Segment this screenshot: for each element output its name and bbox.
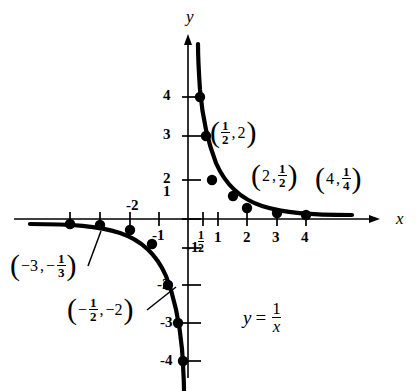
open-paren: ( [210, 120, 220, 144]
open-paren: ( [10, 253, 20, 277]
comma: , [271, 168, 277, 184]
y-tick-4: 4 [163, 88, 171, 103]
x-tick-2: 2 [243, 230, 251, 245]
x-tick-one-half: 1 2 [198, 226, 204, 254]
x-value: 2 [261, 168, 271, 184]
data-point [125, 225, 135, 235]
x-tick-1: 1 [214, 230, 222, 245]
fraction-one-quarter: 1 4 [342, 165, 351, 192]
minus-sign: − [77, 302, 88, 318]
fraction-one-half: 1 2 [278, 162, 287, 189]
y-tick-1: 1 [163, 184, 171, 199]
close-paren: ) [247, 120, 257, 144]
minus-sign: − [45, 258, 56, 274]
y-tick-3: 3 [163, 127, 171, 142]
comma: , [335, 171, 341, 187]
equation-label: y = 1 x [243, 300, 283, 335]
data-point [95, 220, 105, 230]
leader-line-neg-three [88, 231, 101, 266]
fraction-one-half: 1 2 [89, 296, 98, 323]
graph-canvas [0, 0, 420, 391]
y-value: −2 [105, 302, 124, 318]
x-tick-one-half-denominator: 2 [198, 241, 204, 254]
annotation-point-neg-half: ( − 1 2 , −2 ) [67, 296, 134, 323]
annotation-point-neg-three: ( −3 , − 1 3 ) [10, 252, 77, 279]
x-tick-3: 3 [272, 230, 280, 245]
annotation-point-two-half: ( 2 , 1 2 ) [251, 162, 298, 189]
close-paren: ) [124, 297, 134, 321]
x-axis-label: x [396, 210, 404, 227]
equation-denominator: x [272, 317, 282, 335]
x-tick-one-half-numerator: 1 [198, 229, 204, 241]
open-paren: ( [251, 163, 261, 187]
data-point [207, 175, 217, 185]
y-axis-label: y [186, 8, 194, 25]
close-paren: ) [288, 163, 298, 187]
close-paren: ) [67, 253, 77, 277]
fraction-one-third: 1 3 [57, 252, 66, 279]
data-point [272, 208, 282, 218]
open-paren: ( [315, 166, 325, 190]
equation-lhs: y [243, 308, 251, 327]
data-point [65, 219, 75, 229]
y-tick-neg-4: -4 [160, 353, 173, 368]
fraction-one-half: 1 2 [221, 119, 230, 146]
x-value: −3 [20, 258, 39, 274]
y-tick-neg-1: -1 [186, 240, 199, 255]
annotation-point-four-quarter: ( 4 , 1 4 ) [315, 165, 362, 192]
x-tick-4: 4 [301, 230, 309, 245]
open-paren: ( [67, 297, 77, 321]
data-point [242, 203, 252, 213]
x-value: 4 [325, 171, 335, 187]
equation-numerator: 1 [271, 300, 282, 317]
y-tick-neg-2: -2 [157, 277, 170, 292]
x-tick-neg-1: -1 [152, 228, 165, 243]
y-value: 2 [237, 125, 247, 141]
close-paren: ) [352, 166, 362, 190]
x-tick-neg-2: -2 [126, 198, 139, 213]
graph-figure: y x 4 3 2 1 -1 -2 -3 -4 -2 -1 1 2 1 2 3 … [0, 0, 420, 391]
fraction-one-over-x: 1 x [271, 300, 282, 335]
data-point [301, 210, 311, 220]
annotation-point-half-two: ( 1 2 , 2 ) [210, 119, 257, 146]
y-tick-neg-3: -3 [160, 315, 173, 330]
data-point [228, 191, 238, 201]
equals-sign: = [251, 308, 270, 327]
data-point [195, 92, 205, 102]
data-point [178, 356, 188, 366]
data-point [173, 318, 183, 328]
